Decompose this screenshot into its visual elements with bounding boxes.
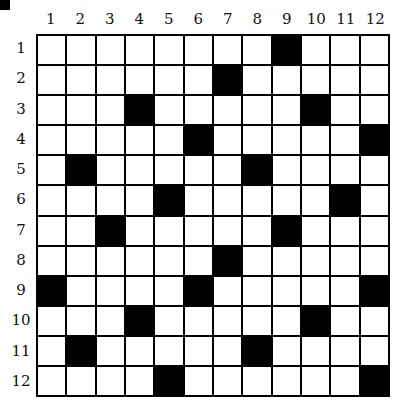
grid-cell[interactable] [361, 96, 388, 124]
grid-cell[interactable] [126, 217, 153, 245]
grid-cell[interactable] [38, 66, 65, 94]
grid-cell[interactable] [302, 36, 329, 64]
grid-cell[interactable] [185, 217, 212, 245]
grid-cell[interactable] [361, 217, 388, 245]
grid-cell[interactable] [214, 277, 241, 305]
grid-cell[interactable] [302, 217, 329, 245]
grid-cell[interactable] [302, 367, 329, 395]
grid-cell[interactable] [331, 126, 358, 154]
grid-cell[interactable] [361, 337, 388, 365]
grid-cell[interactable] [126, 156, 153, 184]
grid-cell[interactable] [67, 36, 94, 64]
grid-cell[interactable] [155, 126, 182, 154]
grid-cell[interactable] [243, 126, 270, 154]
grid-cell[interactable] [331, 217, 358, 245]
grid-cell[interactable] [302, 277, 329, 305]
grid-cell[interactable] [126, 36, 153, 64]
grid-cell[interactable] [185, 66, 212, 94]
grid-cell[interactable] [185, 156, 212, 184]
grid-cell[interactable] [97, 96, 124, 124]
grid-cell[interactable] [126, 126, 153, 154]
grid-cell[interactable] [273, 247, 300, 275]
grid-cell[interactable] [155, 307, 182, 335]
grid-cell[interactable] [273, 186, 300, 214]
grid-cell[interactable] [243, 367, 270, 395]
grid-cell[interactable] [185, 367, 212, 395]
grid-cell[interactable] [155, 96, 182, 124]
grid-cell[interactable] [155, 156, 182, 184]
grid-cell[interactable] [67, 367, 94, 395]
grid-cell[interactable] [67, 217, 94, 245]
grid-cell[interactable] [155, 247, 182, 275]
grid-cell[interactable] [126, 367, 153, 395]
grid-cell[interactable] [361, 247, 388, 275]
grid-cell[interactable] [214, 36, 241, 64]
grid-cell[interactable] [302, 247, 329, 275]
grid-cell[interactable] [38, 307, 65, 335]
grid-cell[interactable] [185, 96, 212, 124]
grid-cell[interactable] [331, 367, 358, 395]
grid-cell[interactable] [97, 337, 124, 365]
grid-cell[interactable] [97, 126, 124, 154]
grid-cell[interactable] [155, 277, 182, 305]
grid-cell[interactable] [97, 156, 124, 184]
grid-cell[interactable] [155, 36, 182, 64]
grid-cell[interactable] [38, 36, 65, 64]
grid-cell[interactable] [361, 36, 388, 64]
grid-cell[interactable] [185, 337, 212, 365]
grid-cell[interactable] [38, 186, 65, 214]
grid-cell[interactable] [302, 156, 329, 184]
grid-cell[interactable] [185, 36, 212, 64]
grid-cell[interactable] [243, 186, 270, 214]
grid-cell[interactable] [243, 96, 270, 124]
grid-cell[interactable] [273, 126, 300, 154]
grid-cell[interactable] [243, 307, 270, 335]
grid-cell[interactable] [97, 367, 124, 395]
grid-cell[interactable] [331, 307, 358, 335]
grid-cell[interactable] [331, 156, 358, 184]
grid-cell[interactable] [214, 96, 241, 124]
grid-cell[interactable] [155, 217, 182, 245]
grid-cell[interactable] [67, 96, 94, 124]
grid-cell[interactable] [38, 337, 65, 365]
grid-cell[interactable] [273, 337, 300, 365]
grid-cell[interactable] [97, 66, 124, 94]
grid-cell[interactable] [67, 186, 94, 214]
grid-cell[interactable] [97, 307, 124, 335]
grid-cell[interactable] [302, 126, 329, 154]
grid-cell[interactable] [273, 66, 300, 94]
grid-cell[interactable] [361, 307, 388, 335]
grid-cell[interactable] [243, 36, 270, 64]
grid-cell[interactable] [67, 126, 94, 154]
grid-cell[interactable] [302, 186, 329, 214]
grid-cell[interactable] [214, 337, 241, 365]
grid-cell[interactable] [243, 247, 270, 275]
grid-cell[interactable] [67, 66, 94, 94]
grid-cell[interactable] [361, 186, 388, 214]
grid-cell[interactable] [126, 66, 153, 94]
grid-cell[interactable] [214, 217, 241, 245]
grid-cell[interactable] [185, 247, 212, 275]
grid-cell[interactable] [97, 186, 124, 214]
grid-cell[interactable] [273, 277, 300, 305]
grid-cell[interactable] [38, 247, 65, 275]
grid-cell[interactable] [155, 66, 182, 94]
grid-cell[interactable] [243, 66, 270, 94]
grid-cell[interactable] [126, 186, 153, 214]
grid-cell[interactable] [214, 307, 241, 335]
grid-cell[interactable] [38, 156, 65, 184]
grid-cell[interactable] [273, 307, 300, 335]
grid-cell[interactable] [361, 156, 388, 184]
grid-cell[interactable] [185, 186, 212, 214]
grid-cell[interactable] [273, 156, 300, 184]
grid-cell[interactable] [273, 367, 300, 395]
grid-cell[interactable] [214, 367, 241, 395]
grid-cell[interactable] [331, 247, 358, 275]
grid-cell[interactable] [126, 337, 153, 365]
grid-cell[interactable] [331, 337, 358, 365]
grid-cell[interactable] [38, 126, 65, 154]
grid-cell[interactable] [126, 277, 153, 305]
grid-cell[interactable] [302, 66, 329, 94]
grid-cell[interactable] [331, 66, 358, 94]
grid-cell[interactable] [126, 247, 153, 275]
